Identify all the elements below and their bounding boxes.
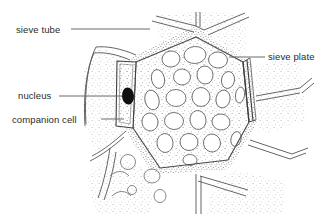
label-sieve-tube: sieve tube xyxy=(16,25,60,35)
label-sieve-plate: sieve plate xyxy=(268,52,315,62)
label-nucleus: nucleus xyxy=(18,91,51,101)
label-companion-cell: companion cell xyxy=(12,115,77,125)
figure-canvas: sieve tube nucleus companion cell sieve … xyxy=(0,0,330,217)
